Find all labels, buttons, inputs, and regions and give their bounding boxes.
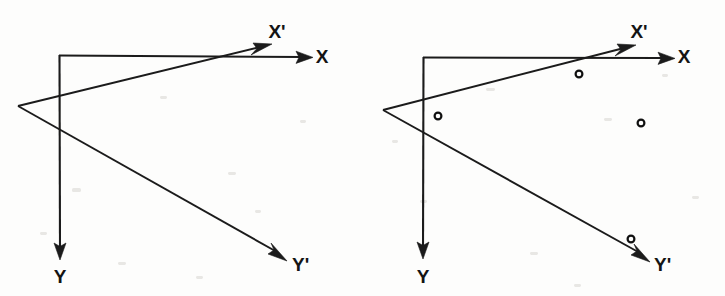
data-point-marker: [628, 236, 635, 243]
scan-noise-left: [40, 96, 306, 279]
scan-noise-right: [392, 74, 699, 287]
diagram-panel-left: X Y X' Y': [0, 0, 363, 296]
axis-y-prime-arrowhead: [631, 244, 650, 262]
axis-label-y: Y: [54, 266, 67, 287]
axis-y: Y: [417, 57, 430, 287]
axis-x-line: [423, 58, 665, 59]
axis-x-line: [59, 56, 303, 58]
axis-label-y-prime: Y': [292, 254, 309, 275]
axis-x-prime: X': [18, 21, 286, 106]
axis-y-prime-line: [18, 106, 277, 252]
axis-y-prime-line: [383, 110, 640, 253]
data-point-marker: [576, 71, 583, 78]
data-point-marker: [638, 120, 645, 127]
axis-label-x: X: [678, 46, 691, 67]
axis-y-line: [423, 57, 424, 249]
axis-label-y-prime: Y': [654, 254, 671, 275]
data-point-marker: [435, 113, 442, 120]
diagram-panel-right: X Y X' Y': [362, 0, 725, 296]
axis-y-prime-arrowhead: [268, 243, 287, 261]
axis-label-x: X: [316, 46, 329, 67]
axis-y: Y: [54, 55, 67, 287]
axis-label-x-prime: X': [268, 21, 285, 42]
axis-x: X: [423, 46, 691, 67]
axis-label-x-prime: X': [630, 21, 647, 42]
figure-root: X Y X' Y': [0, 0, 725, 296]
axis-y-line: [60, 55, 61, 250]
axis-label-y: Y: [417, 266, 430, 287]
